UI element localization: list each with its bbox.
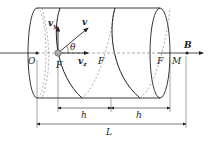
label-origin: O <box>28 56 36 66</box>
label-point-m: M <box>171 56 182 66</box>
label-pitch-1: h <box>81 110 87 120</box>
point-b <box>186 52 189 55</box>
origin-point <box>36 52 39 55</box>
label-velocity-z: vz <box>78 56 87 67</box>
label-focus-2: F <box>97 56 105 66</box>
label-focus-1: F <box>55 60 63 70</box>
charged-particle <box>55 50 61 56</box>
helix-front-segment-2 <box>112 8 140 98</box>
angle-arc <box>67 46 68 53</box>
label-focus-3: F <box>156 56 164 66</box>
label-velocity: v <box>82 17 88 27</box>
label-length: L <box>105 127 112 137</box>
helix-cylinder-diagram: O F F F M B vy v vz θ h h L <box>0 0 214 142</box>
label-velocity-y: vy <box>48 18 57 30</box>
label-pitch-2: h <box>136 110 142 120</box>
label-field-b: B <box>183 40 192 50</box>
label-angle-theta: θ <box>70 42 76 52</box>
